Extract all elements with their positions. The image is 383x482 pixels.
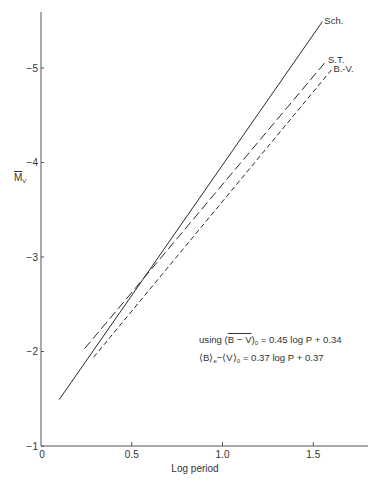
eq2-v: −⟨V⟩ (217, 352, 237, 363)
x-tick-label: 0 (39, 449, 45, 460)
x-ticks: 00.51.01.5 (39, 442, 320, 460)
y-tick-label: −4 (27, 157, 39, 168)
x-tick-label: 1.0 (216, 449, 230, 460)
eq1-prefix: using ( (199, 334, 228, 345)
y-axis-title: MV (14, 172, 26, 184)
axes (41, 12, 368, 446)
series-label: B.-V. (333, 63, 353, 74)
pl-relation-chart: 00.51.01.5 −1−2−3−4−5 Sch.S.T.B.-V. Log … (0, 0, 383, 482)
series-label: Sch. (324, 15, 343, 26)
y-tick-label: −1 (27, 441, 39, 452)
x-tick-label: 0.5 (125, 449, 139, 460)
equation-line-1: using (B − V)0 = 0.45 log P + 0.34 (199, 333, 342, 351)
eq1-rest: = 0.45 log P + 0.34 (258, 334, 342, 345)
x-tick-label: 1.5 (306, 449, 320, 460)
series-line-b-v (94, 70, 332, 357)
x-axis-title: Log period (171, 463, 218, 474)
y-axis-title-sub: V (22, 178, 26, 184)
y-tick-label: −5 (27, 63, 39, 74)
eq2-rest: = 0.37 log P + 0.37 (240, 352, 324, 363)
series-line-s-t (85, 61, 326, 348)
y-tick-label: −3 (27, 252, 39, 263)
eq1-color-index: B − V (228, 334, 252, 345)
y-tick-label: −2 (27, 346, 39, 357)
equation-annotation: using (B − V)0 = 0.45 log P + 0.34 ⟨B⟩e−… (199, 333, 342, 368)
equation-line-2: ⟨B⟩e−⟨V⟩0 = 0.37 log P + 0.37 (199, 351, 342, 369)
eq2-b: ⟨B⟩ (199, 352, 213, 363)
series-labels: Sch.S.T.B.-V. (324, 15, 353, 74)
